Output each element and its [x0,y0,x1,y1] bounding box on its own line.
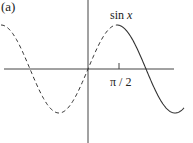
tick-label-pi-over-2: π / 2 [110,76,131,88]
function-label: sin x [110,9,132,21]
sine-figure: (a) sin x π / 2 [0,0,193,143]
function-variable: x [127,8,132,22]
sine-plot [0,0,193,143]
panel-label: (a) [1,0,15,13]
function-name: sin [110,8,124,22]
